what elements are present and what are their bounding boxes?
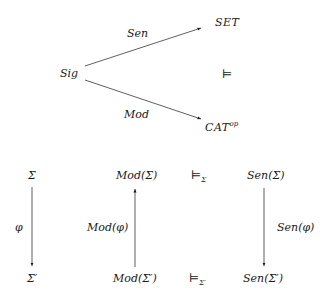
sen-phi-label: Sen(φ) — [277, 222, 314, 233]
sigma-prime-subscript: Σ′ — [199, 279, 206, 287]
arrow-layer — [0, 0, 326, 305]
sen-sigma-prime-node: Sen(Σ′) — [243, 273, 283, 284]
mod-phi-label: Mod(φ) — [87, 222, 128, 233]
satisfaction-relation-symbol: ⊨ — [222, 68, 232, 80]
mod-sigma-node: Mod(Σ) — [116, 170, 157, 181]
op-superscript: op — [230, 120, 239, 128]
models-symbol: ⊨ — [191, 168, 201, 182]
sigma-node: Σ — [28, 170, 36, 181]
satisfaction-sigma: ⊨Σ — [191, 169, 206, 184]
mod-sigma-prime-node: Mod(Σ′) — [113, 273, 157, 284]
cat-op-node: CATop — [205, 121, 238, 133]
sigma-prime-node: Σ′ — [27, 273, 37, 284]
sen-label: Sen — [127, 28, 148, 39]
cat-label: CAT — [205, 121, 230, 134]
sen-sigma-node: Sen(Σ) — [247, 170, 285, 181]
sig-node: Sig — [60, 68, 78, 79]
mod-label: Mod — [124, 109, 149, 120]
models-symbol: ⊨ — [189, 271, 199, 285]
sigma-subscript: Σ — [201, 176, 206, 184]
satisfaction-sigma-prime: ⊨Σ′ — [189, 272, 206, 287]
set-node: SET — [215, 17, 239, 28]
phi-label: φ — [15, 222, 23, 233]
